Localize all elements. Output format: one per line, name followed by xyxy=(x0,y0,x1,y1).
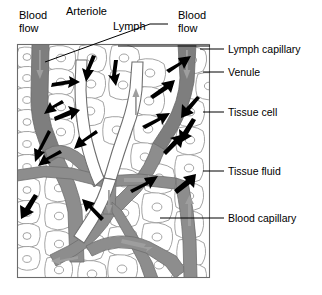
label-lymph: Lymph xyxy=(113,20,146,32)
label-arteriole: Arteriole xyxy=(66,5,107,17)
label-tissue-cell: Tissue cell xyxy=(228,106,277,118)
label-blood-flow-right-line2: flow xyxy=(178,22,198,34)
diagram-canvas: Blood flow Arteriole Lymph Blood flow Ly… xyxy=(0,0,322,295)
label-blood-flow-left-line2: flow xyxy=(19,22,39,34)
label-blood-capillary: Blood capillary xyxy=(228,212,297,224)
tissue-fluid-diagram: Blood flow Arteriole Lymph Blood flow Ly… xyxy=(0,0,322,295)
label-blood-flow-left-line1: Blood xyxy=(19,9,47,21)
label-lymph-capillary: Lymph capillary xyxy=(228,43,301,55)
label-venule: Venule xyxy=(228,66,260,78)
label-blood-flow-right-line1: Blood xyxy=(178,9,206,21)
diagram-interior xyxy=(16,44,224,292)
label-tissue-fluid: Tissue fluid xyxy=(228,165,281,177)
